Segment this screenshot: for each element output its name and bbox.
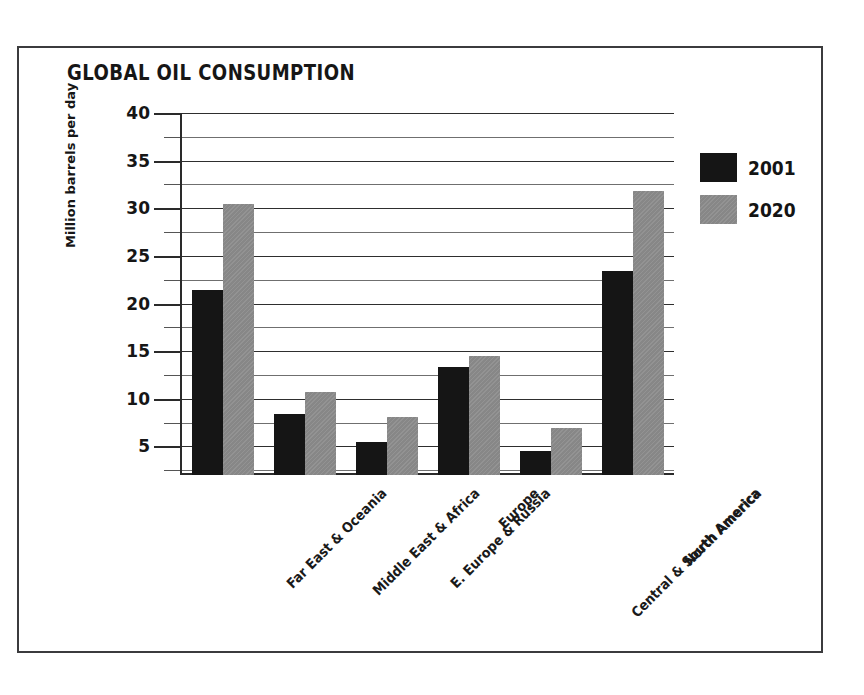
y-tick-minor [164,470,180,471]
bar-2001[interactable] [520,451,551,475]
legend-swatch-2001 [700,153,737,182]
y-tick-major [154,161,180,163]
y-tick-label: 35 [126,151,150,171]
y-tick-label: 30 [126,198,150,218]
gridline-minor [180,137,674,138]
y-axis-title: Million barrels per day [63,83,78,248]
y-tick-major [154,351,180,353]
bar-2001[interactable] [192,290,223,475]
bar-2020[interactable] [469,356,500,475]
legend-item-2020[interactable]: 2020 [700,195,801,224]
bar-2020[interactable] [387,417,418,475]
y-tick-label: 20 [126,294,150,314]
bar-group [274,113,336,475]
gridline-minor [180,327,674,328]
y-tick-minor [164,327,180,328]
bar-group [520,113,582,475]
legend-label-2001: 2001 [748,157,796,179]
y-tick-label: 10 [126,389,150,409]
bar-group [356,113,418,475]
y-axis-line [180,113,182,475]
gridline-major [180,304,674,305]
y-tick-major [154,304,180,306]
chart-title: GLOBAL OIL CONSUMPTION [67,61,355,85]
y-tick-major [154,399,180,401]
y-tick-major [154,208,180,210]
gridline-minor [180,184,674,185]
y-tick-label: 5 [138,436,150,456]
x-axis-line [180,473,674,475]
y-tick-major [154,113,180,115]
x-category-label: Far East & Oceania [283,485,389,591]
gridline-major [180,446,674,447]
y-tick-minor [164,137,180,138]
gridline-minor [180,375,674,376]
y-tick-minor [164,423,180,424]
y-tick-minor [164,375,180,376]
bar-group [192,113,254,475]
bar-2020[interactable] [305,392,336,475]
chart-legend: 20012020 [700,153,801,237]
gridline-minor [180,280,674,281]
y-tick-label: 15 [126,341,150,361]
legend-item-2001[interactable]: 2001 [700,153,801,182]
x-category-label: North America [681,485,765,569]
gridline-major [180,113,674,114]
y-tick-major [154,256,180,258]
legend-label-2020: 2020 [748,199,796,221]
bar-2001[interactable] [438,367,469,475]
plot-area: 403530252015105 [180,113,674,475]
legend-swatch-2020 [700,195,737,224]
bar-2001[interactable] [602,271,633,475]
gridline-major [180,399,674,400]
y-tick-major [154,446,180,448]
figure-frame: GLOBAL OIL CONSUMPTION Million barrels p… [17,46,823,653]
y-tick-minor [164,280,180,281]
gridline-major [180,351,674,352]
bar-2020[interactable] [551,428,582,475]
bar-2001[interactable] [356,442,387,475]
bar-2020[interactable] [223,204,254,476]
gridline-minor [180,470,674,471]
gridline-major [180,208,674,209]
gridline-major [180,161,674,162]
y-tick-label: 40 [126,103,150,123]
y-tick-label: 25 [126,246,150,266]
bar-2020[interactable] [633,191,664,475]
bar-group [602,113,664,475]
bar-2001[interactable] [274,414,305,475]
gridline-major [180,256,674,257]
y-tick-minor [164,232,180,233]
y-tick-minor [164,184,180,185]
gridline-minor [180,423,674,424]
bar-group [438,113,500,475]
gridline-minor [180,232,674,233]
